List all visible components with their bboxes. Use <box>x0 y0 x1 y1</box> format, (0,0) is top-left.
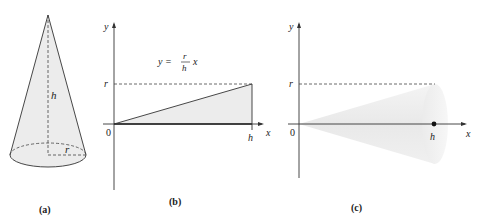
origin-label: 0 <box>290 127 295 138</box>
h-tick-label: h <box>430 131 435 142</box>
h-point <box>432 122 437 127</box>
y-axis-label: y <box>288 21 294 32</box>
radius-label: r <box>65 143 70 155</box>
svg-text:y =: y = <box>157 56 172 67</box>
origin-label: 0 <box>106 127 111 138</box>
equation-label: y = r h x <box>157 51 198 73</box>
r-tick-label: r <box>289 78 293 89</box>
caption-b: (b) <box>169 196 181 208</box>
height-label: h <box>51 89 57 101</box>
y-axis-label: y <box>103 21 109 32</box>
y-axis-arrow-icon <box>112 22 116 28</box>
x-axis-arrow-icon <box>258 122 264 126</box>
panel-b-region: y x 0 r h y = r h x (b) <box>103 21 271 208</box>
svg-text:x: x <box>192 56 198 67</box>
caption-c: (c) <box>351 202 362 214</box>
panel-c-solid: y x 0 r h (c) <box>288 21 471 214</box>
y-axis-arrow-icon <box>297 22 301 28</box>
caption-a: (a) <box>39 204 51 216</box>
x-axis-label: x <box>265 127 271 138</box>
panel-a-cone: h r (a) <box>10 15 86 216</box>
h-tick-label: h <box>248 132 253 143</box>
x-axis-arrow-icon <box>461 122 467 126</box>
r-tick-label: r <box>104 78 108 89</box>
cone-volume-figure: h r (a) y x 0 r h y = r h x (b) <box>0 0 480 220</box>
x-axis-label: x <box>465 128 471 139</box>
svg-text:r: r <box>183 51 187 61</box>
svg-text:h: h <box>182 63 187 73</box>
